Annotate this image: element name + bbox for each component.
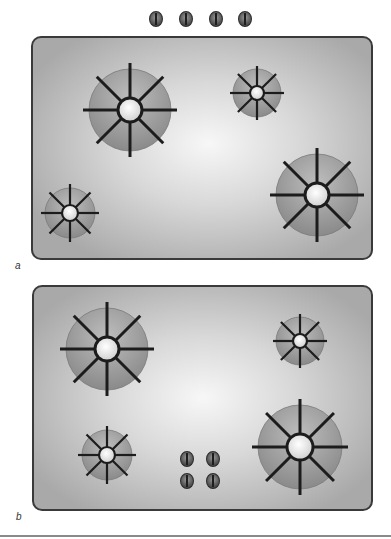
control-knob-icon xyxy=(179,11,193,27)
burner-small-bottom-left-icon xyxy=(76,424,138,486)
figure-label-b: b xyxy=(16,511,22,522)
burner-large-top-left-icon xyxy=(58,300,156,398)
burner-small-top-right-icon xyxy=(228,64,286,122)
burner-small-top-right-icon xyxy=(271,312,329,370)
control-knob-icon xyxy=(238,11,252,27)
control-knob-icon xyxy=(149,11,163,27)
burner-large-top-left-icon xyxy=(81,61,179,159)
burner-small-bottom-left-icon xyxy=(39,182,101,244)
control-knob-icon xyxy=(180,473,194,489)
control-knob-icon xyxy=(206,473,220,489)
bottom-rule xyxy=(0,535,391,537)
control-knob-icon xyxy=(180,451,194,467)
control-knob-icon xyxy=(206,451,220,467)
burner-large-bottom-right-icon xyxy=(268,146,366,244)
control-knob-icon xyxy=(209,11,223,27)
burner-large-bottom-right-icon xyxy=(250,397,350,497)
figure-label-a: a xyxy=(15,260,21,271)
